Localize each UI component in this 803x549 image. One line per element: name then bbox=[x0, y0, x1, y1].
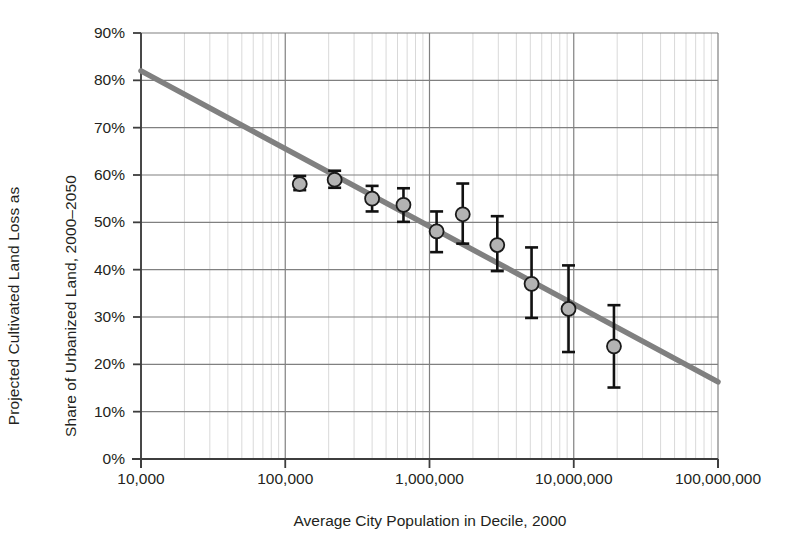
data-point-marker bbox=[607, 339, 621, 353]
data-point-group bbox=[293, 173, 621, 354]
data-point-marker bbox=[328, 173, 342, 187]
plot-area bbox=[0, 0, 803, 549]
chart-figure: Projected Cultivated Land Loss as Share … bbox=[0, 0, 803, 549]
minor-gridlines bbox=[184, 33, 711, 459]
axis-ticks bbox=[133, 33, 718, 468]
data-point-marker bbox=[562, 302, 576, 316]
data-point-marker bbox=[396, 198, 410, 212]
data-point-marker bbox=[490, 238, 504, 252]
error-bars-group bbox=[293, 171, 620, 388]
data-point-marker bbox=[525, 277, 539, 291]
data-point-marker bbox=[456, 207, 470, 221]
data-point-marker bbox=[430, 224, 444, 238]
data-point-marker bbox=[293, 177, 307, 191]
axis-lines bbox=[132, 33, 718, 468]
data-point-marker bbox=[365, 192, 379, 206]
